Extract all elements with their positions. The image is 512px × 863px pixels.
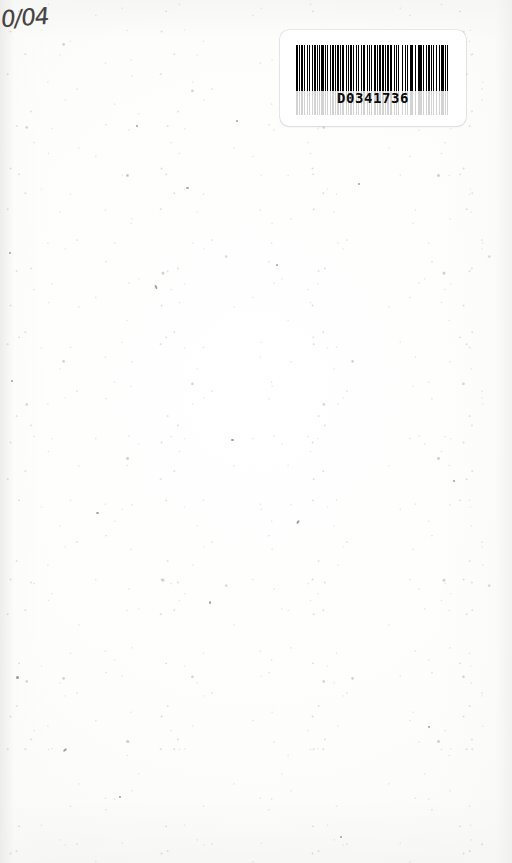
paper-fleck [340,836,342,838]
scanned-page: 0/04 D0341736 [0,0,512,863]
paper-fleck [96,512,99,514]
barcode-number-text: D0341736 [280,90,466,106]
paper-fleck [453,480,455,482]
paper-fleck [209,601,211,604]
paper-fleck [119,796,121,798]
barcode-bars [296,45,450,91]
paper-speckle-texture [0,0,512,863]
paper-fleck [9,252,11,254]
paper-fleck [11,380,13,382]
barcode-label: D0341736 [280,30,466,126]
paper-fleck [136,125,138,127]
handwritten-annotation: 0/04 [0,3,50,33]
paper-fleck [236,120,238,122]
paper-fleck [276,264,278,266]
paper-fleck [231,439,234,441]
paper-fleck [16,676,19,679]
paper-fleck [358,183,360,185]
paper-fleck [428,726,430,728]
paper-fleck [186,187,189,189]
